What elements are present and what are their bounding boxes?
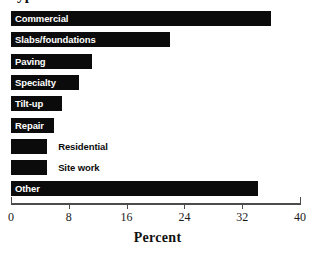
bar-label: Other: [15, 181, 40, 196]
bar-row: Slabs/foundations: [11, 32, 300, 47]
x-axis-title: Percent: [0, 229, 315, 246]
x-axis-tick-label: 0: [0, 210, 31, 224]
bar-row: Specialty: [11, 75, 300, 90]
x-axis-tick: [11, 197, 12, 204]
x-axis-tick: [69, 203, 70, 209]
bar-row: Paving: [11, 54, 300, 69]
bar-label: Tilt-up: [15, 96, 43, 111]
chart-title: Types of concrete work: [8, 0, 308, 5]
bar: [11, 181, 258, 196]
x-axis-tick-label: 16: [107, 210, 147, 224]
x-axis-tick: [127, 203, 128, 209]
bar-label: Specialty: [15, 75, 56, 90]
bar-row: Residential: [11, 139, 300, 154]
bar-row: Tilt-up: [11, 96, 300, 111]
bar-row: Site work: [11, 160, 300, 175]
bar-label: Site work: [58, 160, 99, 175]
bar-row: Other: [11, 181, 300, 196]
bar-row: Commercial: [11, 11, 300, 26]
bar-label: Commercial: [15, 11, 68, 26]
bar: [11, 160, 47, 175]
bar-label: Slabs/foundations: [15, 32, 96, 47]
bar-chart-figure: Types of concrete work CommercialSlabs/f…: [0, 0, 315, 253]
x-axis-tick-label: 8: [49, 210, 89, 224]
x-axis-line: [11, 203, 301, 205]
bar-label: Repair: [15, 118, 44, 133]
x-axis-tick: [184, 203, 185, 209]
x-axis-tick: [242, 203, 243, 209]
x-axis-tick-label: 32: [222, 210, 262, 224]
x-axis-tick-label: 24: [164, 210, 204, 224]
x-axis-tick-label: 40: [280, 210, 315, 224]
bar-label: Residential: [58, 139, 108, 154]
bar-label: Paving: [15, 54, 46, 69]
plot-area: CommercialSlabs/foundationsPavingSpecial…: [11, 11, 300, 203]
bar-row: Repair: [11, 118, 300, 133]
bar: [11, 139, 47, 154]
x-axis-tick: [300, 197, 301, 204]
